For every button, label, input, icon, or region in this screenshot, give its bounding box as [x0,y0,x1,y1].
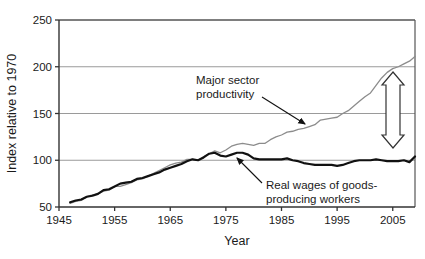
x-tick-label-1975: 1975 [213,214,239,226]
gap-double-arrow [382,72,404,148]
line-chart: 5010015020025019451955196519751985199520… [0,0,425,259]
y-tick-label-100: 100 [33,154,52,166]
x-tick-label-1955: 1955 [102,214,128,226]
y-tick-label-250: 250 [33,14,52,26]
x-tick-label-1985: 1985 [269,214,295,226]
wages-annotation-line1: Real wages of goods- [266,179,377,191]
chart-container: 5010015020025019451955196519751985199520… [0,0,425,259]
wages-annotation-line2: producing workers [266,193,360,205]
x-tick-label-1965: 1965 [157,214,183,226]
y-axis-title: Index relative to 1970 [5,54,19,174]
x-tick-label-2005: 2005 [380,214,406,226]
y-tick-label-50: 50 [39,201,52,213]
wages-annotation-arrow [237,158,262,183]
x-tick-label-1995: 1995 [324,214,350,226]
productivity-annotation-line2: productivity [196,88,254,100]
productivity-annotation-arrow [262,97,305,124]
x-tick-label-1945: 1945 [46,214,72,226]
y-tick-label-150: 150 [33,108,52,120]
y-tick-label-200: 200 [33,61,52,73]
x-axis-title: Year [224,234,249,248]
productivity-annotation-line1: Major sector [196,74,259,86]
